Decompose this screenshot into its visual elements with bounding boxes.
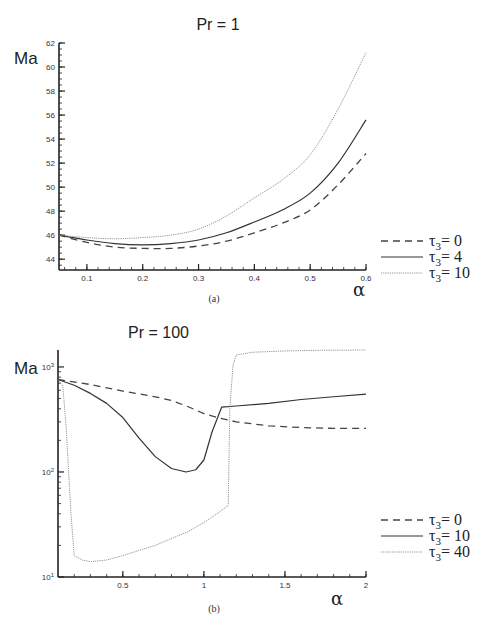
y-tick-label: 101 [42,572,55,582]
legend-label: τ3= 40 [429,543,470,563]
x-tick-label: 0.5 [117,581,129,590]
x-tick-label: 0.5 [305,274,317,283]
x-tick-label: 1.5 [279,581,291,590]
x-tick-label: 0.3 [193,274,205,283]
y-tick-label: 50 [46,183,55,192]
y-tick-label: 102 [42,467,55,477]
chart-a-xlabel: α [353,279,365,300]
series-line [58,379,366,428]
y-tick-label: 46 [46,231,55,240]
chart-a-caption: (a) [208,293,219,305]
y-tick-label: 48 [46,207,55,216]
chart-b-ylabel: Ma [14,359,38,378]
chart-b-legend: τ3= 0τ3= 10τ3= 40 [381,511,470,563]
chart-b-xlabel: α [331,588,343,609]
figure: Pr = 1 Ma 0.10.20.30.40.50.6444648505254… [0,0,489,617]
series-line [59,120,366,245]
chart-a-legend: τ3= 0τ3= 4τ3= 10 [381,232,470,284]
y-tick-label: 62 [46,39,55,48]
y-tick-label: 58 [46,87,55,96]
chart-b-title: Pr = 100 [128,324,189,341]
chart-b-caption: (b) [208,603,220,615]
y-tick-label: 52 [46,159,55,168]
y-tick-label: 44 [46,255,55,264]
series-line [59,153,366,248]
chart-a-series [59,53,366,249]
series-line [58,350,366,562]
chart-a-title: Pr = 1 [196,16,239,33]
chart-a: Pr = 1 Ma 0.10.20.30.40.50.6444648505254… [14,16,470,305]
series-line [59,53,366,239]
x-tick-label: 2 [364,581,369,590]
y-tick-label: 60 [46,63,55,72]
x-tick-label: 0.2 [137,274,149,283]
y-tick-label: 56 [46,111,55,120]
chart-a-ylabel: Ma [14,49,38,68]
x-tick-label: 0.1 [81,274,93,283]
y-tick-label: 103 [42,362,55,372]
chart-b: Pr = 100 Ma 0.511.52101102103 α (b) τ3= … [14,324,470,615]
chart-a-axes: 0.10.20.30.40.50.644464850525456586062 [46,39,372,283]
chart-b-axes: 0.511.52101102103 [42,350,369,590]
y-tick-label: 54 [46,135,55,144]
chart-b-series [58,350,366,562]
x-tick-label: 1 [202,581,207,590]
x-tick-label: 0.4 [249,274,261,283]
legend-label: τ3= 10 [429,264,470,284]
series-line [58,379,366,472]
